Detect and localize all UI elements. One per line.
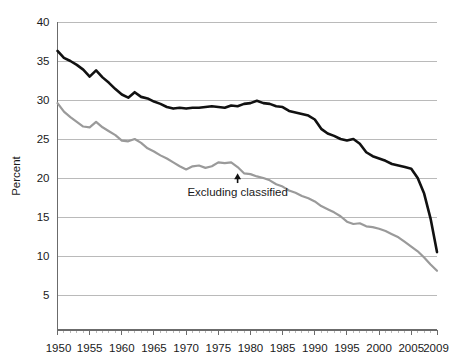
y-tick-label: 30	[37, 94, 50, 106]
y-tick-labels-group: 510152025303540	[37, 16, 50, 301]
x-tick-label: 1965	[141, 342, 167, 354]
series-line	[58, 51, 438, 252]
x-tick-label: 1985	[270, 342, 296, 354]
y-tick-label: 10	[37, 250, 50, 262]
annotations-group: Excluding classified	[187, 173, 287, 198]
x-tick-label: 2009	[423, 342, 449, 354]
y-tick-label: 40	[37, 16, 50, 28]
axis-lines-group	[58, 22, 438, 330]
y-tick-label: 15	[37, 211, 50, 223]
x-tick-label: 1975	[206, 342, 232, 354]
annotation-label: Excluding classified	[187, 186, 287, 198]
x-tick-label: 1980	[238, 342, 264, 354]
x-tick-label: 1960	[109, 342, 135, 354]
x-tick-label: 1990	[302, 342, 328, 354]
y-axis-title: Percent	[10, 155, 22, 195]
x-tick-label: 1950	[46, 342, 72, 354]
x-tick-label: 1970	[173, 342, 199, 354]
x-tick-label: 2005	[398, 342, 424, 354]
y-tick-label: 5	[43, 289, 49, 301]
y-tick-label: 35	[37, 55, 50, 67]
x-tick-label: 2000	[366, 342, 392, 354]
line-chart: 510152025303540 195019551960196519701975…	[0, 0, 470, 364]
chart-container: 510152025303540 195019551960196519701975…	[0, 0, 470, 364]
x-minor-ticks-group	[58, 330, 438, 335]
y-tick-label: 25	[37, 133, 50, 145]
x-tick-label: 1955	[77, 342, 103, 354]
series-group	[58, 51, 438, 271]
x-tick-labels-group: 1950195519601965197019751980198519901995…	[46, 342, 449, 354]
up-arrow-icon	[234, 173, 241, 179]
y-tick-label: 20	[37, 172, 50, 184]
x-tick-label: 1995	[334, 342, 360, 354]
